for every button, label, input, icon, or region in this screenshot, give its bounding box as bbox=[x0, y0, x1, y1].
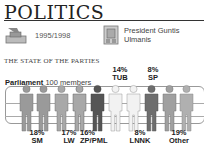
label-lnnk: 8% LNNK bbox=[128, 129, 152, 145]
label-zp: 16% ZP/PML bbox=[80, 129, 114, 145]
figure-sm-2 bbox=[37, 85, 50, 131]
name-lnnk: LNNK bbox=[128, 137, 152, 145]
president-label: President Guntis Ulmanis bbox=[124, 27, 179, 44]
figure-zp bbox=[91, 85, 104, 131]
president-seal-icon bbox=[103, 24, 119, 45]
name-lw: LW bbox=[59, 137, 79, 145]
figure-lnnk-sp bbox=[145, 85, 158, 131]
election-dates: 1995/1998 bbox=[35, 31, 70, 40]
section-subtitle: THE STATE OF THE PARTIES bbox=[4, 57, 100, 65]
figure-tub-1 bbox=[109, 85, 122, 131]
label-sm: 18% SM bbox=[27, 129, 47, 145]
figure-sm-1 bbox=[20, 85, 33, 131]
figure-lw-zp bbox=[73, 85, 86, 131]
president-line-2: Ulmanis bbox=[124, 36, 179, 45]
title-rule bbox=[4, 20, 204, 21]
figure-tub-2 bbox=[127, 85, 140, 131]
ballot-box-icon bbox=[5, 26, 27, 44]
page-title: POLITICS bbox=[4, 2, 104, 22]
label-sp: 8% SP bbox=[144, 66, 162, 82]
name-zp: ZP/PML bbox=[80, 137, 114, 145]
label-other: 19% Other bbox=[166, 129, 192, 145]
name-sp: SP bbox=[144, 74, 162, 82]
figure-lw-1 bbox=[55, 85, 68, 131]
figure-other-2 bbox=[180, 85, 193, 131]
label-tub: 14% TUB bbox=[108, 66, 132, 82]
figure-other-1 bbox=[163, 85, 176, 131]
label-lw: 17% LW bbox=[59, 129, 79, 145]
name-tub: TUB bbox=[108, 74, 132, 82]
name-sm: SM bbox=[27, 137, 47, 145]
name-other: Other bbox=[166, 137, 192, 145]
